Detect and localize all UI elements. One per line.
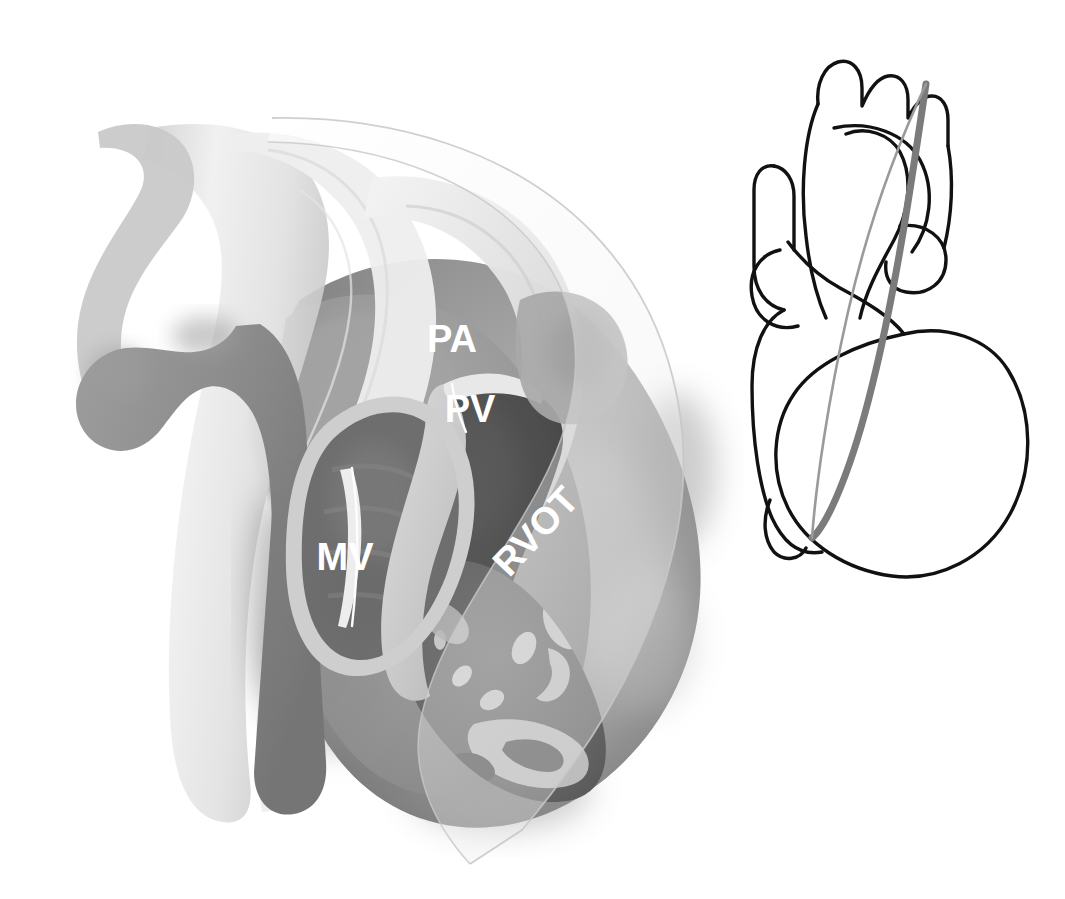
inset-imaging-plane-marker bbox=[812, 84, 926, 538]
inset-right-ventricle bbox=[752, 242, 904, 553]
heart-orientation-inset-svg bbox=[0, 0, 1065, 899]
figure-root: PA PV RVOT MV bbox=[0, 0, 1065, 899]
inset-svc bbox=[754, 166, 794, 310]
inset-diagram bbox=[0, 0, 1065, 899]
